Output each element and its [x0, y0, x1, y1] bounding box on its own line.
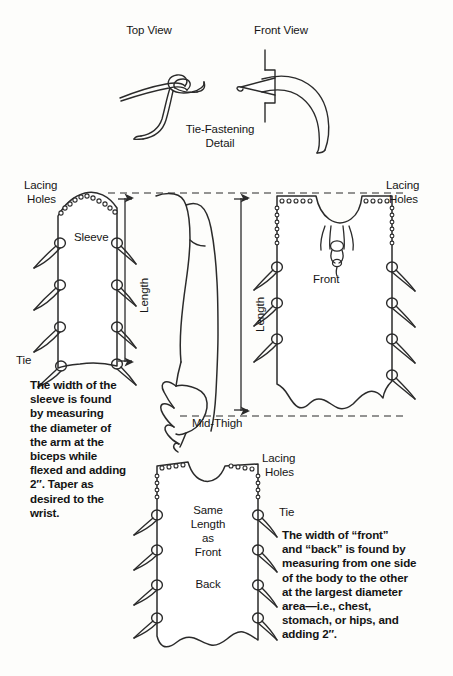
front-piece-label: Front	[313, 273, 339, 286]
front-length-label: Length	[254, 297, 266, 332]
body-length-dimension	[234, 198, 248, 411]
back-same-length-line1: Same	[165, 504, 251, 517]
back-piece-label: Back	[165, 578, 251, 591]
body-width-note: The width of “front” and “back” is found…	[282, 528, 450, 642]
pattern-diagram-page: Top View Front View Tie-Fastening Detail…	[0, 0, 453, 676]
sleeve-tie-label: Tie	[16, 354, 31, 367]
sleeve-lacing-holes-label-line2: Holes	[27, 193, 56, 206]
back-same-length-line2: Length	[165, 518, 251, 531]
back-tie-label: Tie	[279, 506, 294, 519]
front-shoulder-lacing-holes	[280, 199, 389, 203]
sleeve-length-label: Length	[138, 278, 150, 313]
sleeve-piece-label: Sleeve	[74, 231, 109, 244]
back-same-length-line3: as	[165, 532, 251, 545]
sleeve-lacing-holes-label-line1: Lacing	[24, 179, 57, 192]
front-lacing-holes-label-line2: Holes	[389, 193, 418, 206]
front-pattern-piece	[277, 196, 392, 409]
tie-detail-caption-line2: Detail	[165, 137, 275, 150]
human-figure	[156, 194, 218, 452]
top-view-label: Top View	[104, 24, 194, 37]
front-lacing-holes-label-line1: Lacing	[386, 179, 419, 192]
sleeve-pattern-piece	[58, 192, 117, 368]
sleeve-length-dimension	[118, 198, 132, 362]
back-lacing-holes-label-line1: Lacing	[262, 452, 295, 465]
tie-detail-caption-line1: Tie-Fastening	[165, 123, 275, 136]
front-view-label: Front View	[232, 24, 330, 37]
mid-thigh-label: Mid-Thigh	[192, 417, 242, 430]
back-lacing-holes-label-line2: Holes	[265, 466, 294, 479]
back-same-length-line4: Front	[165, 546, 251, 559]
sleeve-width-note: The width of the sleeve is found by meas…	[30, 378, 158, 520]
